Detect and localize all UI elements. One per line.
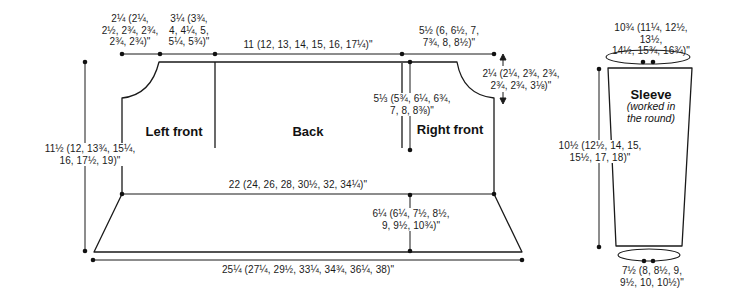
left-front-section-label: Left front xyxy=(145,124,202,139)
body-outline xyxy=(94,62,522,252)
body-length-label: 11½ (12, 13¾, 15¼, 16, 17½, 19)" xyxy=(43,143,138,166)
back-section-label: Back xyxy=(292,124,323,139)
hem-width-label: 25¼ (27¼, 29½, 33¼, 34¾, 36¼, 38)" xyxy=(222,264,394,276)
right-front-section-label: Right front xyxy=(417,122,483,137)
right-front-width-label: 5½ (6, 6½, 7, 7¾, 8, 8½)" xyxy=(419,25,479,48)
back-width-label: 11 (12, 13, 14, 15, 16, 17¼)" xyxy=(243,39,372,51)
schematic-page: 2¼ (2¼, 2½, 2¾, 2¾, 2¾, 2¾)" 3¼ (3¾, 4, … xyxy=(0,0,740,301)
right-neck-depth-label: 2¼ (2¼, 2¾, 2¾, 2¾, 2¾, 3⅛)" xyxy=(480,68,561,91)
sleeve-note-label: (worked in the round) xyxy=(627,101,675,124)
left-neck-width-label: 2¼ (2¼, 2½, 2¾, 2¾, 2¾, 2¾)" xyxy=(102,13,159,48)
lower-depth-label: 6¼ (6¼, 7½, 8½, 9, 9½, 10¾)" xyxy=(370,208,451,231)
shoulder-width-label: 3¼ (3¾, 4, 4¼, 5, 5¼, 5¾)" xyxy=(168,13,209,48)
sleeve-cuff-ellipse xyxy=(618,249,680,261)
sleeve-length-label: 10½ (12½, 14, 15, 15½, 17, 18)" xyxy=(557,140,644,163)
chest-width-label: 22 (24, 26, 28, 30½, 32, 34¼)" xyxy=(229,179,367,191)
armhole-depth-label: 5⅓ (5¾, 6¼, 6¾, 7, 8, 8⅜)" xyxy=(371,93,452,116)
sleeve-top-circumference-label: 10¾ (11¼, 12½, 13½, 14½, 15¾, 16¾)" xyxy=(607,22,696,57)
cuff-circumference-label: 7½ (8, 8½, 9, 9½, 10, 10½)" xyxy=(620,265,684,288)
